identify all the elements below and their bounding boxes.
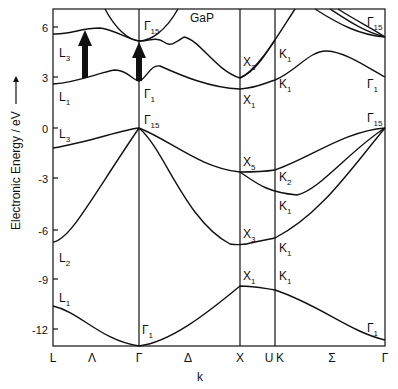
- svg-text:Γ1: Γ1: [144, 87, 156, 104]
- svg-text:K1: K1: [279, 269, 292, 286]
- svg-text:L3: L3: [59, 127, 71, 144]
- svg-text:L2: L2: [59, 251, 71, 268]
- svg-text:U: U: [265, 351, 274, 365]
- y-ticks: [53, 27, 58, 329]
- svg-text:L3: L3: [59, 46, 71, 63]
- point-labels: L3 L1 L3 L2 L1 Γ15 Γ1 Γ15 Γ1 X3 X1 X5 X3…: [59, 15, 383, 340]
- svg-text:X3: X3: [243, 227, 256, 244]
- y-axis-label: Electronic Energy / eV: [9, 76, 23, 230]
- plot-frame: [53, 9, 385, 346]
- svg-text:Γ1: Γ1: [142, 323, 154, 340]
- svg-text:-6: -6: [38, 225, 48, 237]
- svg-text:Γ15: Γ15: [367, 111, 383, 128]
- svg-text:0: 0: [42, 123, 48, 135]
- svg-text:X3: X3: [243, 55, 256, 72]
- svg-text:Γ: Γ: [382, 351, 389, 365]
- svg-text:Σ: Σ: [328, 351, 335, 365]
- svg-text:-9: -9: [38, 274, 48, 286]
- svg-text:K1: K1: [279, 199, 292, 216]
- svg-text:L1: L1: [59, 291, 71, 308]
- svg-text:X1: X1: [243, 269, 256, 286]
- svg-text:L1: L1: [59, 90, 71, 107]
- svg-text:K1: K1: [279, 77, 292, 94]
- svg-text:X: X: [236, 351, 244, 365]
- svg-text:X5: X5: [243, 155, 256, 172]
- svg-text:3: 3: [42, 72, 48, 84]
- y-tick-labels: 6 3 0 -3 -6 -9 -12: [32, 22, 48, 336]
- x-tick-labels: L Λ Γ Δ X U K Σ Γ: [50, 351, 389, 365]
- svg-text:Λ: Λ: [88, 351, 96, 365]
- svg-text:Γ1: Γ1: [367, 77, 379, 94]
- svg-text:Γ: Γ: [136, 351, 143, 365]
- svg-text:X1: X1: [243, 93, 256, 110]
- svg-text:Γ15: Γ15: [144, 19, 160, 36]
- x-axis-label: k: [197, 370, 204, 384]
- svg-text:Γ15: Γ15: [144, 113, 160, 130]
- svg-text:6: 6: [42, 22, 48, 34]
- bands: [53, 9, 385, 346]
- svg-text:-3: -3: [38, 173, 48, 185]
- svg-text:K2: K2: [279, 170, 292, 187]
- chart-title: GaP: [190, 11, 214, 25]
- svg-text:K1: K1: [279, 47, 292, 64]
- transition-arrows: [78, 30, 146, 81]
- svg-text:Electronic Energy / eV: Electronic Energy / eV: [9, 111, 23, 230]
- svg-text:-12: -12: [32, 324, 48, 336]
- svg-text:Δ: Δ: [184, 351, 192, 365]
- svg-text:K: K: [276, 351, 284, 365]
- band-structure-chart: 6 3 0 -3 -6 -9 -12 Electronic Energy / e…: [0, 0, 398, 389]
- svg-text:K1: K1: [279, 241, 292, 258]
- svg-text:Γ15: Γ15: [367, 15, 383, 32]
- svg-text:L: L: [50, 351, 57, 365]
